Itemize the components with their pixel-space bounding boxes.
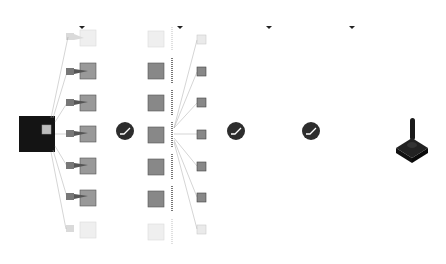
layer-marker (266, 26, 272, 29)
joystick-icon (396, 118, 428, 163)
conv2-outputs (197, 35, 206, 234)
layer-marker (349, 26, 355, 29)
layer-marker (79, 26, 85, 29)
relu-icon (227, 122, 245, 140)
conv2-feature-maps (148, 27, 172, 244)
network-connections (0, 0, 446, 264)
layer-marker (177, 26, 183, 29)
relu-icon (116, 122, 134, 140)
relu-icon (302, 122, 320, 140)
conv1-feature-maps (66, 30, 96, 238)
